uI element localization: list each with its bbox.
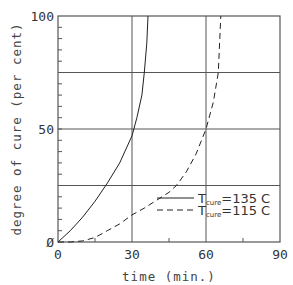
x-tick-label: 30 [124, 247, 140, 262]
axis-ticks: 0306090Ø50100 [31, 9, 288, 262]
x-axis-label: time (min.) [122, 269, 216, 284]
y-tick-label: 100 [31, 9, 54, 24]
x-tick-label: 0 [54, 247, 62, 262]
cure-chart: 0306090Ø50100 Tcure=135 CTcure=115 C tim… [0, 0, 293, 285]
y-tick-label: Ø [46, 235, 54, 250]
y-tick-label: 50 [38, 122, 54, 137]
x-tick-label: 60 [198, 247, 214, 262]
x-tick-label: 90 [272, 247, 288, 262]
legend: Tcure=135 CTcure=115 C [157, 191, 270, 219]
y-axis-label: degree of cure (per cent) [9, 22, 24, 235]
